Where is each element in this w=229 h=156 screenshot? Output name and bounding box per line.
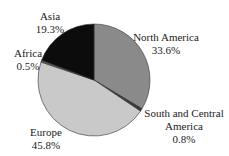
label-asia-name: Asia [32, 10, 68, 23]
label-north-america-value: 33.6% [128, 44, 204, 57]
label-africa-value: 0.5% [10, 60, 46, 73]
label-asia: Asia 19.3% [32, 10, 68, 36]
label-africa-name: Africa [10, 47, 46, 60]
label-sca-name: South and Central [140, 107, 228, 120]
label-africa: Africa 0.5% [10, 47, 46, 73]
label-south-central-america: South and Central America 0.8% [140, 107, 228, 146]
label-europe-name: Europe [24, 126, 68, 139]
label-asia-value: 19.3% [32, 23, 68, 36]
label-sca-value: 0.8% [140, 133, 228, 146]
label-sca-name2: America [140, 120, 228, 133]
label-europe: Europe 45.8% [24, 126, 68, 152]
label-north-america: North America 33.6% [128, 31, 204, 57]
label-north-america-name: North America [128, 31, 204, 44]
label-europe-value: 45.8% [24, 139, 68, 152]
